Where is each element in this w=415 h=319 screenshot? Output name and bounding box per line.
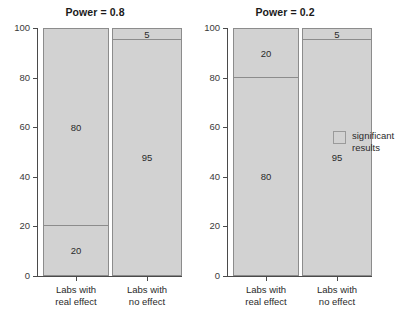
panel-title: Power = 0.8: [0, 6, 190, 18]
y-axis-tick-label: 40: [209, 172, 220, 182]
stacked-bar: 8020: [43, 28, 109, 276]
legend-swatch-significant-results: [333, 131, 346, 144]
x-axis-tick: [147, 277, 148, 281]
stacked-bar: 595: [112, 28, 182, 276]
y-axis-tick-label: 80: [209, 73, 220, 83]
bar-segment-value-label: 95: [303, 153, 371, 163]
stacked-bar: 2080: [233, 28, 299, 276]
bar-segment-value-label: 20: [234, 49, 298, 59]
chart-panel-power-0-8: Power = 0.8 0204060801008020Labs with re…: [0, 0, 190, 319]
y-axis-tick-label: 40: [19, 172, 30, 182]
y-axis-tick-label: 80: [19, 73, 30, 83]
y-axis-tick: [33, 78, 37, 79]
y-axis-tick-label: 100: [14, 23, 30, 33]
chart-panel-power-0-2: Power = 0.2 0204060801002080Labs with re…: [190, 0, 380, 319]
y-axis-tick: [223, 177, 227, 178]
bar-segment-value-label: 20: [44, 246, 108, 256]
y-axis-line: [37, 28, 38, 276]
y-axis-line: [227, 28, 228, 276]
bar-segment-value-label: 80: [44, 123, 108, 133]
stacked-bar-chart-figure: Power = 0.8 0204060801008020Labs with re…: [0, 0, 415, 319]
y-axis-tick-label: 20: [209, 221, 220, 231]
chart-legend: significant results: [333, 130, 394, 153]
bar-segment-value-label: 5: [303, 30, 371, 40]
bar-segment: 80: [43, 28, 109, 226]
x-axis-tick: [337, 277, 338, 281]
y-axis-tick: [33, 226, 37, 227]
y-axis-tick-label: 60: [19, 122, 30, 132]
y-axis-tick-label: 20: [19, 221, 30, 231]
bar-segment-value-label: 95: [113, 153, 181, 163]
y-axis-tick: [223, 127, 227, 128]
y-axis-tick: [33, 28, 37, 29]
bar-segment-value-label: 80: [234, 172, 298, 182]
x-axis-tick: [76, 277, 77, 281]
x-axis-category-label: Labs with no effect: [292, 284, 382, 307]
legend-label-significant-results: significant results: [352, 130, 394, 153]
bar-segment: 5: [112, 28, 182, 40]
y-axis-tick-label: 0: [215, 271, 220, 281]
y-axis-tick-label: 0: [25, 271, 30, 281]
x-axis-line: [227, 276, 372, 277]
y-axis-tick: [33, 177, 37, 178]
bar-segment: 95: [112, 40, 182, 276]
bar-segment-value-label: 5: [113, 30, 181, 40]
bar-segment: 20: [233, 28, 299, 78]
y-axis-tick: [223, 28, 227, 29]
bar-segment: 95: [302, 40, 372, 276]
panel-title: Power = 0.2: [190, 6, 380, 18]
x-axis-category-label: Labs with no effect: [102, 284, 192, 307]
y-axis-tick: [33, 276, 37, 277]
x-axis-line: [37, 276, 182, 277]
y-axis-tick: [223, 226, 227, 227]
y-axis-tick-label: 100: [204, 23, 220, 33]
y-axis-tick-label: 60: [209, 122, 220, 132]
bar-segment: 80: [233, 78, 299, 276]
y-axis-tick: [223, 78, 227, 79]
x-axis-tick: [266, 277, 267, 281]
y-axis-tick: [33, 127, 37, 128]
bar-segment: 5: [302, 28, 372, 40]
y-axis-tick: [223, 276, 227, 277]
bar-segment: 20: [43, 226, 109, 276]
